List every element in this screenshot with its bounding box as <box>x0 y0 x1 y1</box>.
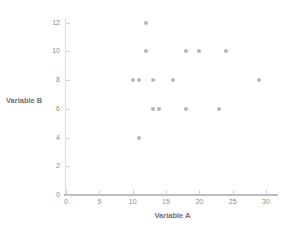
data-point <box>197 49 201 53</box>
y-tick-label: 12 <box>42 19 60 27</box>
data-point <box>137 136 141 140</box>
scatter-plot: 024681012 051015202530 Variable B Variab… <box>0 0 295 230</box>
x-tick-label: 5 <box>89 198 109 206</box>
data-point <box>151 78 155 82</box>
data-point <box>151 107 155 111</box>
data-point <box>144 21 148 25</box>
y-tick-mark <box>66 166 70 167</box>
y-tick-mark <box>66 109 70 110</box>
x-tick-label: 30 <box>256 198 276 206</box>
y-tick-mark <box>66 80 70 81</box>
x-axis-title: Variable A <box>0 211 295 220</box>
y-tick-label: 6 <box>42 105 60 113</box>
data-point <box>171 78 175 82</box>
x-tick-mark <box>66 190 67 194</box>
data-point <box>224 49 228 53</box>
data-point <box>137 78 141 82</box>
y-tick-mark <box>66 195 70 196</box>
y-tick-label: 10 <box>42 47 60 55</box>
data-point <box>184 107 188 111</box>
x-tick-mark <box>233 190 234 194</box>
x-tick-label: 25 <box>223 198 243 206</box>
x-tick-mark <box>266 190 267 194</box>
x-tick-mark <box>133 190 134 194</box>
y-tick-label: 8 <box>42 76 60 84</box>
y-tick-mark <box>66 51 70 52</box>
x-tick-label: 15 <box>156 198 176 206</box>
y-tick-mark <box>66 138 70 139</box>
data-point <box>217 107 221 111</box>
x-tick-mark <box>199 190 200 194</box>
y-tick-label: 4 <box>42 134 60 142</box>
y-axis-title: Variable B <box>6 96 66 105</box>
x-tick-label: 10 <box>123 198 143 206</box>
x-tick-label: 0 <box>56 198 76 206</box>
y-tick-mark <box>66 23 70 24</box>
x-axis-line <box>64 194 278 196</box>
data-point <box>144 49 148 53</box>
data-point <box>184 49 188 53</box>
x-tick-mark <box>99 190 100 194</box>
data-point <box>157 107 161 111</box>
data-point <box>257 78 261 82</box>
data-point <box>131 78 135 82</box>
x-tick-label: 20 <box>189 198 209 206</box>
x-tick-mark <box>166 190 167 194</box>
y-tick-label: 2 <box>42 162 60 170</box>
y-axis-line <box>65 18 66 195</box>
